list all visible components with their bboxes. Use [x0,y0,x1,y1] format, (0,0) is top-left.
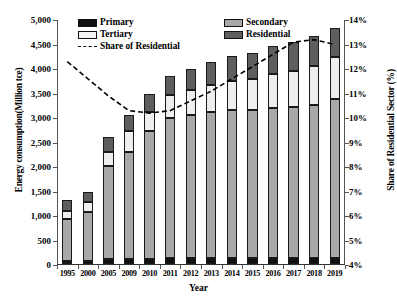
color-swatch-icon [224,31,243,39]
y-axis-right-tick-label: 7% [349,187,363,196]
y-axis-left-tick-label: 500 [38,236,52,245]
dashed-line-swatch-icon [78,43,97,51]
legend-label: Residential [246,29,290,41]
legend-label: Share of Residential [100,41,180,53]
color-swatch-icon [78,31,97,39]
y-axis-right-tick-label: 4% [349,261,363,270]
y-axis-right-title: Share of Residential Sector (%) [386,45,396,215]
x-axis-tick-label: 2010 [139,269,160,278]
legend-label: Tertiary [100,29,133,41]
x-axis-tick-label: 2015 [242,269,263,278]
x-axis-tick-label: 2018 [304,269,325,278]
y-axis-left-tick-label: 2,000 [31,163,51,172]
y-axis-left-tick-label: 0 [47,261,52,270]
legend-item-residential[interactable]: Residential [224,29,290,41]
legend-label: Secondary [246,17,288,29]
x-axis-tick-label: 1995 [57,269,78,278]
legend-item-secondary[interactable]: Secondary [224,17,288,29]
y-axis-right-tick-label: 12% [349,65,367,74]
y-axis-right-tick-label: 11% [349,89,367,98]
y-axis-right-tick-label: 8% [349,163,363,172]
x-axis-tick-label: 2005 [98,269,119,278]
x-axis-tick-label: 2019 [324,269,345,278]
x-axis-tick-label: 2016 [263,269,284,278]
legend-item-primary[interactable]: Primary [78,17,134,29]
x-axis-tick [345,265,346,269]
chart-legend: PrimarySecondaryTertiaryResidentialShare… [78,17,308,53]
legend-label: Primary [100,17,134,29]
y-axis-left-tick-label: 1,500 [31,187,51,196]
y-axis-left-tick-label: 3,000 [31,114,51,123]
y-axis-right-tick-label: 9% [349,138,363,147]
x-axis-tick-label: 2009 [119,269,140,278]
color-swatch-icon [224,19,243,27]
x-axis-tick-label: 2013 [201,269,222,278]
x-axis-tick-label: 2014 [222,269,243,278]
y-axis-left-tick-label: 3,500 [31,89,51,98]
y-axis-left-title: Energy consumption(Million tce) [14,45,24,215]
x-axis-tick-label: 2011 [160,269,181,278]
x-axis-tick-label: 2012 [180,269,201,278]
share-of-residential-line [57,20,345,265]
chart-figure: Energy consumption(Million tce) Share of… [0,0,397,299]
legend-item-tertiary[interactable]: Tertiary [78,29,133,41]
y-axis-right-tick-label: 13% [349,40,367,49]
y-axis-left-tick-label: 4,000 [31,65,51,74]
color-swatch-icon [78,19,97,27]
y-axis-left-tick-label: 2,500 [31,138,51,147]
y-axis-right-tick-label: 14% [349,16,367,25]
y-axis-left-tick-label: 4,500 [31,40,51,49]
y-axis-right-tick-label: 6% [349,212,363,221]
y-axis-left-tick-label: 5,000 [31,16,51,25]
y-axis-right-tick-label: 5% [349,236,363,245]
legend-item-share-of-residential[interactable]: Share of Residential [78,41,180,53]
y-axis-right-tick-label: 10% [349,114,367,123]
x-axis-tick-label: 2017 [283,269,304,278]
x-axis-tick-label: 2000 [78,269,99,278]
x-axis-title: Year [0,283,397,293]
y-axis-left-tick-label: 1,000 [31,212,51,221]
plot-area: 05001,0001,5002,0002,5003,0003,5004,0004… [57,20,345,265]
